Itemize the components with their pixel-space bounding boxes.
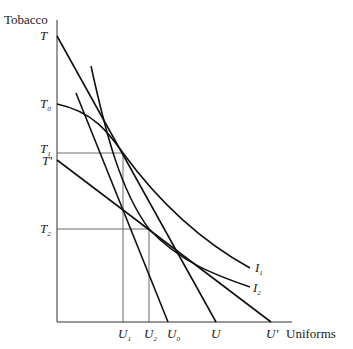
budget-line-Tprime-Uprime [57,160,271,322]
x-tick-U2: U2 [144,326,157,343]
y-tick-Tprime: T' [42,153,52,168]
curve-label-I2: I2 [252,280,261,297]
diagram-canvas: Tobacco Uniforms TT0T1T'T2 U1U2U0UU' I1I… [0,0,353,349]
x-tick-U1: U1 [118,326,131,343]
y-axis-label: Tobacco [4,12,48,27]
x-axis-label: Uniforms [286,326,336,341]
y-tick-T2: T2 [40,221,51,238]
curve-labels: I1I2 [252,260,263,297]
guide-T1-U1 [57,153,123,322]
guide-T2-U2 [57,229,149,322]
x-tick-U0: U0 [167,326,180,343]
x-tick-U: U [211,326,222,341]
y-tick-labels: TT0T1T'T2 [40,28,52,238]
y-tick-T: T [40,28,48,43]
x-tick-labels: U1U2U0UU' [118,326,278,343]
indifference-curve-diagram: Tobacco Uniforms TT0T1T'T2 U1U2U0UU' I1I… [0,0,353,349]
y-tick-T0: T0 [40,96,51,113]
curve-label-I1: I1 [254,260,263,277]
indifference-curve-I1 [57,104,250,268]
budget-line-U0 [76,93,168,322]
x-tick-Uprime: U' [266,326,278,341]
